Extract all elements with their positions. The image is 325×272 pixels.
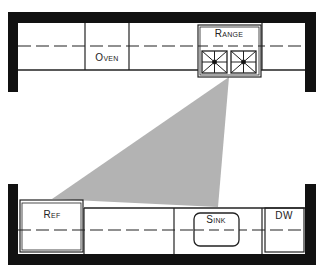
burner-icon: [231, 51, 256, 73]
dw-label: DW: [275, 210, 292, 221]
burner-icon: [202, 51, 227, 73]
refrigerator: [20, 200, 83, 252]
range-label: Range: [215, 28, 244, 39]
kitchen-floor-plan: [0, 0, 325, 272]
top-counter: [18, 23, 305, 70]
work-triangle: [52, 77, 229, 207]
bottom-counter: [18, 208, 305, 254]
ref-label: Ref: [43, 209, 60, 220]
top-wall: [8, 12, 316, 92]
sink-label: Sink: [206, 214, 226, 225]
oven-label: Oven: [95, 52, 118, 63]
